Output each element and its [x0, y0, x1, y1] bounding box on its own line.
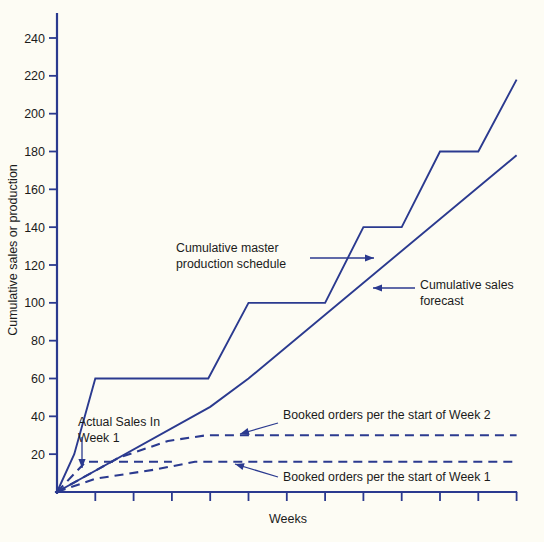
annotation-actual-sales-line-1: Week 1 [78, 431, 120, 445]
y-axis-title: Cumulative sales or production [6, 164, 20, 336]
annotation-booked-week1-line-0: Booked orders per the start of Week 1 [283, 470, 491, 484]
y-tick-label-40: 40 [31, 410, 45, 424]
y-tick-label-120: 120 [24, 259, 45, 273]
annotation-forecast-line-1: forecast [420, 294, 464, 308]
annotation-mps-line-1: production schedule [176, 257, 286, 271]
annotation-actual-sales-line-0: Actual Sales In [78, 415, 160, 429]
y-tick-label-240: 240 [24, 32, 45, 46]
cumulative-sales-production-chart: 20406080100120140160180200220240 Cumulat… [0, 0, 544, 542]
annotation-booked-week2-line-0: Booked orders per the start of Week 2 [283, 408, 491, 422]
chart-container: 20406080100120140160180200220240 Cumulat… [0, 0, 544, 542]
y-tick-label-20: 20 [31, 448, 45, 462]
y-tick-label-160: 160 [24, 183, 45, 197]
y-tick-label-100: 100 [24, 296, 45, 310]
y-tick-label-60: 60 [31, 372, 45, 386]
annotation-mps-line-0: Cumulative master [176, 241, 279, 255]
x-axis-title: Weeks [269, 512, 307, 526]
y-tick-label-140: 140 [24, 221, 45, 235]
y-tick-label-180: 180 [24, 145, 45, 159]
annotation-forecast-line-0: Cumulative sales [420, 278, 514, 292]
y-tick-label-220: 220 [24, 69, 45, 83]
y-tick-label-200: 200 [24, 107, 45, 121]
y-tick-label-80: 80 [31, 334, 45, 348]
